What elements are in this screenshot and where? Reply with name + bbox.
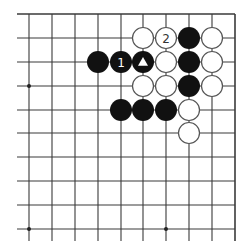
black-stone xyxy=(155,99,177,121)
white-stone xyxy=(133,76,154,97)
go-board: 21 xyxy=(0,0,251,251)
white-stone xyxy=(156,52,177,73)
white-stone xyxy=(179,100,200,121)
black-stone-icon xyxy=(110,99,132,121)
white-stone xyxy=(202,76,223,97)
black-stone xyxy=(132,99,154,121)
black-stone-icon xyxy=(155,99,177,121)
black-stone-icon xyxy=(87,51,109,73)
black-stone xyxy=(178,75,200,97)
white-stone xyxy=(133,28,154,49)
grid-lines xyxy=(17,14,235,241)
white-stone xyxy=(156,76,177,97)
stones: 21 xyxy=(87,27,223,144)
white-stone-icon xyxy=(202,28,223,49)
white-stone-icon xyxy=(202,52,223,73)
black-stone xyxy=(178,51,200,73)
black-stone xyxy=(178,27,200,49)
star-point-icon xyxy=(164,227,168,231)
white-stone-icon xyxy=(202,76,223,97)
white-stone-icon xyxy=(156,76,177,97)
black-stone xyxy=(132,51,154,73)
white-stone xyxy=(202,28,223,49)
black-stone-icon xyxy=(178,27,200,49)
white-stone xyxy=(202,52,223,73)
white-stone-icon xyxy=(179,100,200,121)
black-stone-icon xyxy=(178,51,200,73)
white-stone-icon xyxy=(133,76,154,97)
white-stone: 2 xyxy=(156,28,177,49)
black-stone: 1 xyxy=(110,51,132,73)
white-stone-icon xyxy=(179,123,200,144)
move-number-label: 1 xyxy=(117,56,125,70)
white-stone-icon xyxy=(133,28,154,49)
star-point-icon xyxy=(27,84,31,88)
black-stone xyxy=(110,99,132,121)
white-stone-icon xyxy=(156,52,177,73)
black-stone-icon xyxy=(132,99,154,121)
white-stone xyxy=(179,123,200,144)
black-stone xyxy=(87,51,109,73)
black-stone-icon xyxy=(178,75,200,97)
star-point-icon xyxy=(27,227,31,231)
move-number-label: 2 xyxy=(162,32,170,46)
